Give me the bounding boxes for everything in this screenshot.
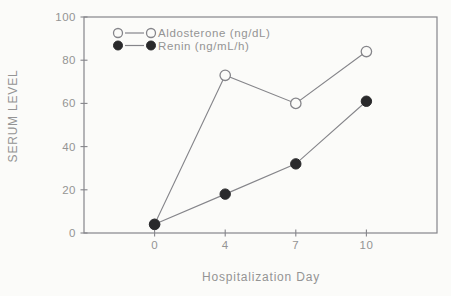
y-tick-label: 0 <box>69 227 76 239</box>
aldosterone-point-day-10 <box>361 46 371 56</box>
x-tick-label: 4 <box>222 239 229 251</box>
y-axis-title: SERUM LEVEL <box>6 70 20 163</box>
x-tick-label: 10 <box>360 239 374 251</box>
legend-label-renin: Renin (ng/mL/h) <box>158 40 249 52</box>
y-tick-label: 80 <box>62 54 76 66</box>
legend-open-circle-icon-right <box>147 29 156 38</box>
aldosterone-point-day-4 <box>220 70 230 80</box>
line-chart: 02040608010004710 Aldosterone (ng/dL) Re… <box>0 0 451 296</box>
plot-frame <box>84 17 437 233</box>
y-tick-label: 60 <box>62 97 76 109</box>
renin-point-day-4 <box>220 189 230 199</box>
serum-level-figure: 02040608010004710 Aldosterone (ng/dL) Re… <box>0 0 451 296</box>
series-line-renin <box>155 101 367 224</box>
aldosterone-point-day-7 <box>291 98 301 108</box>
legend-filled-circle-icon-right <box>147 41 156 50</box>
series-line-aldosterone <box>155 52 367 225</box>
renin-point-day-10 <box>361 96 371 106</box>
y-tick-label: 100 <box>55 11 76 23</box>
y-tick-label: 40 <box>62 141 76 153</box>
legend: Aldosterone (ng/dL) Renin (ng/mL/h) <box>114 27 271 52</box>
x-axis-title: Hospitalization Day <box>202 270 320 284</box>
renin-point-day-7 <box>291 159 301 169</box>
x-tick-label: 7 <box>292 239 299 251</box>
legend-filled-circle-icon-left <box>114 41 123 50</box>
x-tick-label: 0 <box>151 239 158 251</box>
legend-open-circle-icon-left <box>114 29 123 38</box>
renin-point-day-0 <box>149 219 159 229</box>
y-tick-label: 20 <box>62 184 76 196</box>
legend-label-aldosterone: Aldosterone (ng/dL) <box>158 27 270 39</box>
